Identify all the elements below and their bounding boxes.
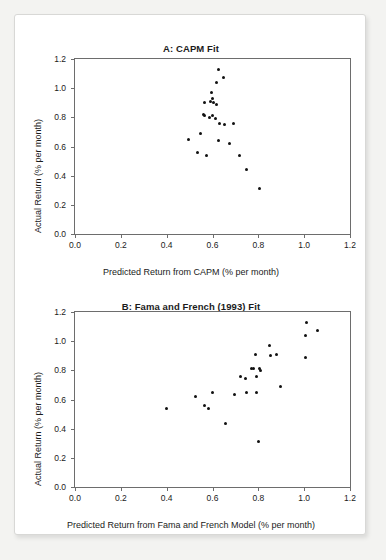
data-point — [255, 375, 258, 378]
data-point — [269, 354, 272, 357]
data-point — [215, 81, 218, 84]
chart-a-y-tick-label: 0.2 — [54, 200, 66, 210]
chart-a-x-tick-label: 0.8 — [252, 240, 264, 250]
data-point — [210, 91, 213, 94]
chart-a-x-tick-label: 0.2 — [115, 240, 127, 250]
data-point — [211, 114, 214, 117]
chart-b-plot-area: 0.00.20.40.60.81.01.20.00.20.40.60.81.01… — [74, 311, 351, 488]
data-point — [222, 76, 225, 79]
data-point — [245, 391, 248, 394]
chart-b-y-tick — [71, 312, 75, 313]
data-point — [252, 367, 255, 370]
chart-b-x-axis-label: Predicted Return from Fama and French Mo… — [15, 520, 367, 530]
chart-a-y-axis-label: Actual Return (% per month) — [33, 119, 43, 233]
data-point — [233, 393, 236, 396]
chart-a-x-tick-label: 0.4 — [161, 240, 173, 250]
chart-a-y-tick — [71, 147, 75, 148]
data-point — [223, 123, 226, 126]
data-point — [211, 97, 214, 100]
data-point — [304, 334, 307, 337]
data-point — [207, 407, 210, 410]
chart-a-title: A: CAPM Fit — [15, 43, 367, 54]
data-point — [211, 391, 214, 394]
data-point — [217, 68, 220, 71]
data-point — [257, 440, 260, 443]
chart-a-y-tick — [71, 205, 75, 206]
chart-b-x-tick-label: 0.6 — [207, 493, 219, 503]
data-point — [218, 122, 221, 125]
chart-b-y-tick — [71, 487, 75, 488]
data-point — [268, 344, 271, 347]
chart-b-x-tick — [75, 487, 76, 491]
data-point — [214, 117, 217, 120]
chart-a-x-tick-label: 1.0 — [298, 240, 310, 250]
data-point — [275, 353, 278, 356]
chart-b-y-tick-label: 1.2 — [54, 307, 66, 317]
figure-card: A: CAPM Fit 0.00.20.40.60.81.01.20.00.20… — [14, 14, 366, 535]
chart-a-y-tick-label: 1.2 — [54, 54, 66, 64]
data-point — [304, 356, 307, 359]
chart-b-y-tick-label: 0.8 — [54, 365, 66, 375]
data-point — [255, 391, 258, 394]
chart-a-x-tick — [258, 234, 259, 238]
chart-b-y-tick — [71, 429, 75, 430]
data-point — [165, 407, 168, 410]
chart-a-x-tick-label: 0.6 — [207, 240, 219, 250]
chart-b-x-tick — [213, 487, 214, 491]
chart-b-x-tick-label: 0.2 — [115, 493, 127, 503]
chart-b-y-tick-label: 0.2 — [54, 453, 66, 463]
chart-a-y-tick — [71, 234, 75, 235]
chart-b-x-tick-label: 0.0 — [69, 493, 81, 503]
chart-a-x-tick — [213, 234, 214, 238]
data-point — [258, 187, 261, 190]
chart-a-y-tick — [71, 176, 75, 177]
chart-a-y-tick-label: 1.0 — [54, 83, 66, 93]
data-point — [194, 395, 197, 398]
chart-b-x-tick-label: 0.4 — [161, 493, 173, 503]
chart-b-x-tick-label: 1.0 — [298, 493, 310, 503]
chart-b-x-tick-label: 1.2 — [344, 493, 356, 503]
chart-a-y-tick — [71, 88, 75, 89]
chart-a-x-tick — [304, 234, 305, 238]
chart-b-x-tick — [121, 487, 122, 491]
data-point — [259, 369, 262, 372]
data-point — [203, 404, 206, 407]
chart-a-x-tick — [167, 234, 168, 238]
chart-b-y-tick — [71, 370, 75, 371]
chart-a-x-tick-label: 0.0 — [69, 240, 81, 250]
chart-panel-a: A: CAPM Fit 0.00.20.40.60.81.01.20.00.20… — [15, 15, 367, 277]
chart-b-x-tick — [258, 487, 259, 491]
data-point — [232, 122, 235, 125]
data-point — [203, 101, 206, 104]
data-point — [238, 154, 241, 157]
chart-b-y-tick-label: 0.6 — [54, 395, 66, 405]
chart-a-y-tick-label: 0.6 — [54, 142, 66, 152]
chart-b-y-tick — [71, 400, 75, 401]
chart-a-y-tick — [71, 59, 75, 60]
chart-a-x-tick-label: 1.2 — [344, 240, 356, 250]
chart-a-plot-area: 0.00.20.40.60.81.01.20.00.20.40.60.81.01… — [74, 58, 351, 235]
data-point — [316, 329, 319, 332]
chart-b-x-tick — [167, 487, 168, 491]
chart-a-x-axis-label: Predicted Return from CAPM (% per month) — [15, 267, 367, 277]
chart-a-x-tick — [121, 234, 122, 238]
chart-a-x-tick — [350, 234, 351, 238]
data-point — [224, 422, 227, 425]
chart-b-y-tick — [71, 341, 75, 342]
data-point — [205, 154, 208, 157]
chart-b-y-tick-label: 0.0 — [54, 482, 66, 492]
data-point — [199, 132, 202, 135]
data-point — [279, 385, 282, 388]
chart-a-y-tick-label: 0.8 — [54, 112, 66, 122]
chart-b-y-tick-label: 0.4 — [54, 424, 66, 434]
data-point — [228, 142, 231, 145]
chart-b-y-tick — [71, 458, 75, 459]
chart-a-y-tick-label: 0.0 — [54, 229, 66, 239]
chart-a-y-tick — [71, 117, 75, 118]
chart-b-y-tick-label: 1.0 — [54, 336, 66, 346]
data-point — [196, 151, 199, 154]
chart-b-x-tick-label: 0.8 — [252, 493, 264, 503]
chart-b-x-tick — [304, 487, 305, 491]
chart-a-y-tick-label: 0.4 — [54, 171, 66, 181]
figure-page: A: CAPM Fit 0.00.20.40.60.81.01.20.00.20… — [0, 0, 386, 560]
